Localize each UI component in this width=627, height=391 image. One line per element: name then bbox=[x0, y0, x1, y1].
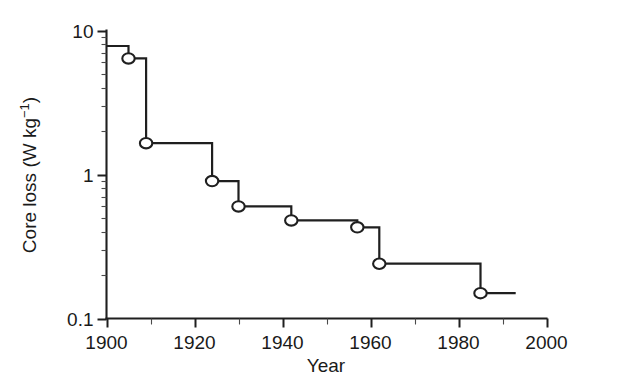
core-loss-step-chart: 1010.1 190019201940196019802000 Year Cor… bbox=[0, 0, 627, 391]
data-point-marker bbox=[373, 259, 385, 269]
x-tick-label: 1900 bbox=[85, 332, 127, 353]
y-tick-label: 0.1 bbox=[67, 309, 93, 330]
data-point-marker bbox=[285, 215, 297, 225]
y-axis-title: Core loss (W kg−1) bbox=[17, 97, 40, 253]
y-axis-title-main: Core loss (W kg bbox=[19, 118, 40, 253]
data-point-markers bbox=[122, 53, 486, 298]
x-tick-label: 1940 bbox=[261, 332, 303, 353]
data-point-marker bbox=[140, 138, 152, 148]
x-axis-ticks bbox=[108, 319, 548, 328]
y-axis-title-tail: ) bbox=[19, 97, 40, 103]
y-axis-title-exponent: −1 bbox=[17, 103, 32, 118]
x-tick-label: 2000 bbox=[525, 332, 567, 353]
chart-figure: 1010.1 190019201940196019802000 Year Cor… bbox=[0, 0, 627, 391]
data-point-marker bbox=[206, 176, 218, 186]
data-point-marker bbox=[232, 201, 244, 211]
y-axis-tick-labels: 1010.1 bbox=[67, 21, 93, 330]
step-line-series bbox=[107, 46, 516, 293]
x-tick-label: 1980 bbox=[437, 332, 479, 353]
y-tick-label: 10 bbox=[72, 21, 93, 42]
x-tick-label: 1960 bbox=[349, 332, 391, 353]
x-axis-title: Year bbox=[307, 355, 346, 376]
data-point-marker bbox=[474, 288, 486, 298]
y-tick-label: 1 bbox=[83, 165, 94, 186]
x-tick-label: 1920 bbox=[173, 332, 215, 353]
x-axis-tick-labels: 190019201940196019802000 bbox=[85, 332, 567, 353]
data-point-marker bbox=[122, 53, 134, 63]
data-point-marker bbox=[351, 222, 363, 232]
y-axis-ticks bbox=[98, 32, 107, 320]
